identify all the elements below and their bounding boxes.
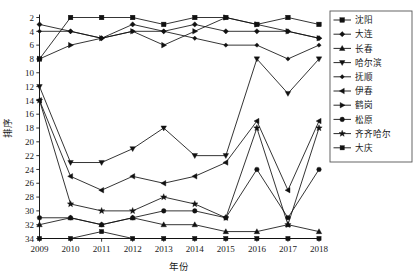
- x-tick-label: 2012: [124, 244, 142, 254]
- data-point-triangle-left-icon: [161, 180, 166, 186]
- chart-legend[interactable]: 沈阳大连长春哈尔滨抚顺伊春鹤岗松原齐齐哈尔大庆: [330, 11, 412, 162]
- data-point-star-icon: [67, 201, 73, 207]
- data-point-diamond-small-icon: [317, 43, 321, 47]
- series-line: [40, 232, 320, 239]
- data-point-square-small-icon: [193, 236, 197, 240]
- y-tick-label: 26: [25, 178, 35, 188]
- y-tick-label: 8: [30, 54, 35, 64]
- y-tick-label: 18: [25, 123, 35, 133]
- y-tick-label: 12: [25, 82, 34, 92]
- data-point-square-small-icon: [68, 236, 72, 240]
- data-point-diamond-small-icon: [224, 43, 228, 47]
- data-point-triangle-left-icon: [285, 187, 290, 193]
- data-point-diamond-icon: [192, 22, 197, 27]
- legend-item-label: 哈尔滨: [355, 57, 382, 68]
- data-point-square-icon: [317, 22, 322, 27]
- data-point-triangle-right-icon: [68, 42, 73, 48]
- data-point-diamond-small-icon: [37, 29, 41, 33]
- y-tick-label: 24: [25, 165, 35, 175]
- series-line: [40, 169, 320, 224]
- data-point-circle-icon: [37, 215, 42, 220]
- data-point-circle-icon: [192, 209, 197, 214]
- legend-item-label: 抚顺: [355, 71, 373, 82]
- y-tick-label: 10: [25, 68, 35, 78]
- data-point-diamond-small-icon: [286, 57, 290, 61]
- series-line: [40, 100, 320, 190]
- data-point-circle-icon: [68, 215, 73, 220]
- data-point-square-icon: [286, 15, 291, 20]
- legend-item-label: 大庆: [355, 142, 373, 153]
- legend-item-label: 松原: [355, 114, 373, 125]
- series-2: [37, 215, 322, 234]
- data-point-square-icon: [68, 15, 73, 20]
- data-point-diamond-small-icon: [68, 29, 72, 33]
- y-tick-label: 4: [30, 27, 35, 37]
- x-tick-label: 2009: [31, 244, 50, 254]
- x-tick-label: 2018: [310, 244, 329, 254]
- series-line: [40, 31, 320, 59]
- series-5: [37, 98, 321, 193]
- data-point-square-small-icon: [317, 236, 321, 240]
- data-point-square-small-icon: [224, 236, 228, 240]
- data-point-square-small-icon: [131, 236, 135, 240]
- data-point-star-icon: [192, 201, 198, 207]
- x-tick-label: 2011: [93, 244, 111, 254]
- series-4: [37, 29, 321, 61]
- x-tick-label: 2013: [155, 244, 174, 254]
- data-point-square-icon: [340, 18, 345, 23]
- data-point-circle-icon: [99, 222, 104, 227]
- data-point-diamond-small-icon: [255, 43, 259, 47]
- y-tick-label: 32: [25, 220, 34, 230]
- y-tick-label: 2: [30, 13, 35, 23]
- data-point-square-icon: [130, 15, 135, 20]
- data-point-circle-icon: [317, 167, 322, 172]
- x-axis-ticks: 2009201020112012201320142015201620172018: [31, 239, 329, 254]
- data-point-triangle-left-icon: [192, 174, 197, 180]
- x-tick-label: 2015: [217, 244, 236, 254]
- series-3: [37, 57, 322, 166]
- data-point-square-icon: [99, 15, 104, 20]
- data-point-diamond-small-icon: [193, 36, 197, 40]
- data-point-diamond-icon: [223, 29, 228, 34]
- x-tick-label: 2010: [62, 244, 81, 254]
- data-point-circle-icon: [130, 215, 135, 220]
- data-point-diamond-icon: [130, 22, 135, 27]
- data-point-diamond-icon: [254, 29, 259, 34]
- data-point-star-icon: [129, 208, 135, 214]
- y-tick-label: 28: [25, 192, 35, 202]
- y-tick-label: 34: [25, 234, 35, 244]
- data-point-triangle-right-icon: [162, 42, 167, 48]
- chart-container: 246810121416182022242628303234 200920102…: [0, 0, 415, 276]
- data-point-square-icon: [192, 15, 197, 20]
- x-tick-label: 2016: [248, 244, 267, 254]
- data-point-square-small-icon: [286, 236, 290, 240]
- data-point-square-icon: [161, 22, 166, 27]
- x-tick-label: 2014: [186, 244, 205, 254]
- legend-item-label: 长春: [355, 43, 373, 54]
- data-point-triangle-left-icon: [99, 187, 104, 193]
- series-line: [40, 18, 320, 59]
- series-line: [40, 59, 320, 163]
- data-point-square-small-icon: [340, 146, 344, 150]
- data-point-diamond-small-icon: [162, 29, 166, 33]
- legend-item-label: 大连: [355, 28, 373, 39]
- y-tick-label: 30: [25, 206, 35, 216]
- data-point-circle-icon: [161, 209, 166, 214]
- legend-item-label: 鹤岗: [355, 99, 373, 110]
- y-tick-label: 16: [25, 109, 35, 119]
- y-tick-label: 20: [25, 137, 35, 147]
- data-point-square-small-icon: [162, 236, 166, 240]
- data-point-diamond-icon: [37, 22, 42, 27]
- y-axis-ticks: 246810121416182022242628303234: [25, 13, 40, 244]
- line-chart: 246810121416182022242628303234 200920102…: [0, 0, 415, 276]
- x-axis-label: 年份: [169, 261, 189, 272]
- data-point-star-icon: [161, 194, 167, 200]
- y-tick-label: 14: [25, 96, 35, 106]
- data-point-square-small-icon: [255, 236, 259, 240]
- data-point-triangle-right-icon: [193, 29, 198, 35]
- x-tick-label: 2017: [279, 244, 298, 254]
- y-axis-label: 排序: [2, 118, 13, 138]
- y-tick-label: 22: [25, 151, 34, 161]
- data-point-triangle-left-icon: [254, 118, 259, 124]
- legend-item-label: 沈阳: [355, 14, 373, 25]
